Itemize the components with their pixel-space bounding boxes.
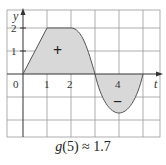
graph: y 2 1 0 1 2 4 t + − [0, 0, 166, 140]
caption-argument: (5) [62, 139, 78, 154]
caption: g(5) ≈ 1.7 [0, 139, 166, 155]
caption-value: ≈ 1.7 [79, 139, 111, 154]
negative-sign: − [113, 93, 122, 110]
y-tick-2: 2 [11, 22, 17, 34]
x-tick-0: 0 [13, 78, 19, 90]
x-tick-4: 4 [115, 78, 121, 90]
x-tick-2: 2 [67, 78, 73, 90]
x-tick-1: 1 [44, 78, 50, 90]
y-tick-1: 1 [11, 45, 17, 57]
y-axis-label: y [12, 9, 19, 23]
y-axis-arrow-icon [21, 8, 26, 15]
integral-area-figure: y 2 1 0 1 2 4 t + − g(5) ≈ 1.7 [0, 0, 166, 165]
t-axis-arrow-icon [156, 72, 163, 77]
axes [7, 12, 160, 137]
x-axis-label: t [154, 77, 158, 91]
positive-sign: + [53, 42, 62, 59]
